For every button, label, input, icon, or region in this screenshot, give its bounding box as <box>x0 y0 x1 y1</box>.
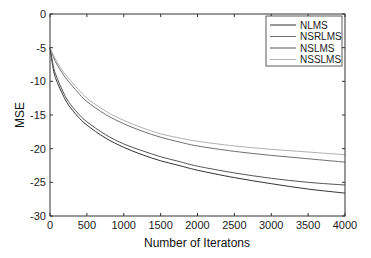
x-tick-label: 500 <box>78 219 96 231</box>
y-tick-label: -30 <box>30 210 46 222</box>
legend-label-nsslms: NSSLMS <box>300 54 341 65</box>
x-tick-label: 4000 <box>333 219 357 231</box>
series-line-nlms <box>50 48 345 193</box>
legend-label-nslms: NSLMS <box>300 43 335 54</box>
y-tick-label: 0 <box>40 8 46 20</box>
y-tick-label: -20 <box>30 143 46 155</box>
y-tick-label: -10 <box>30 75 46 87</box>
y-tick-label: -15 <box>30 109 46 121</box>
mse-line-chart: 05001000150020002500300035004000 0-5-10-… <box>0 0 371 258</box>
x-tick-label: 1500 <box>148 219 172 231</box>
x-tick-label: 0 <box>47 219 53 231</box>
series-line-nslms <box>50 48 345 185</box>
y-tick-label: -5 <box>36 42 46 54</box>
legend-label-nsrlms: NSRLMS <box>300 31 342 42</box>
x-tick-label: 2000 <box>185 219 209 231</box>
x-axis-label: Number of Iteratons <box>144 236 250 250</box>
x-tick-label: 1000 <box>112 219 136 231</box>
x-tick-label: 3000 <box>259 219 283 231</box>
x-tick-label: 3500 <box>296 219 320 231</box>
plot-lines <box>50 48 345 193</box>
y-axis-label: MSE <box>13 102 27 128</box>
y-tick-label: -25 <box>30 176 46 188</box>
legend: NLMSNSRLMSNSLMSNSSLMS <box>266 16 342 66</box>
x-tick-label: 2500 <box>222 219 246 231</box>
legend-label-nlms: NLMS <box>300 20 328 31</box>
